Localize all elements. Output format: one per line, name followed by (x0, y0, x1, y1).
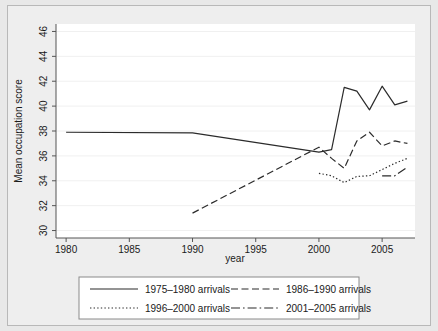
y-tick-label: 42 (38, 75, 49, 87)
line-chart: 303234363840424446 198019851990199520002… (0, 0, 438, 331)
x-tick-label: 2005 (371, 244, 394, 255)
x-axis-title: year (225, 253, 245, 264)
x-tick-label: 1980 (55, 244, 78, 255)
legend-label-2: 1996–2000 arrivals (145, 303, 230, 314)
y-tick-label: 34 (38, 175, 49, 187)
legend-label-0: 1975–1980 arrivals (145, 284, 230, 295)
y-tick-label: 32 (38, 200, 49, 212)
y-axis-ticks: 303234363840424446 (38, 25, 56, 236)
x-tick-label: 2000 (308, 244, 331, 255)
x-tick-label: 1990 (181, 244, 204, 255)
y-tick-label: 44 (38, 50, 49, 62)
x-tick-label: 1995 (245, 244, 268, 255)
y-tick-label: 38 (38, 125, 49, 137)
x-tick-label: 1985 (118, 244, 141, 255)
y-tick-label: 36 (38, 150, 49, 162)
legend-label-3: 2001–2005 arrivals (286, 303, 371, 314)
y-tick-label: 40 (38, 100, 49, 112)
y-tick-label: 46 (38, 25, 49, 37)
y-tick-label: 30 (38, 225, 49, 237)
legend-label-1: 1986–1990 arrivals (286, 284, 371, 295)
y-axis-title: Mean occupation score (13, 79, 24, 183)
chart-figure: 303234363840424446 198019851990199520002… (0, 0, 438, 331)
